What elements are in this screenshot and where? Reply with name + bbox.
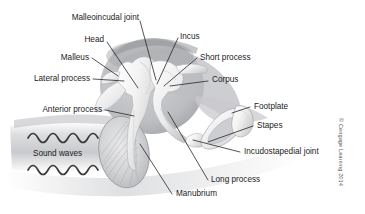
label-lateral-process: Lateral process <box>2 75 90 83</box>
label-manubrium: Manubrium <box>176 190 217 198</box>
label-head: Head <box>4 36 104 44</box>
label-malleoincudal-joint: Malleoincudal joint <box>4 14 139 22</box>
label-sound-waves: Sound waves <box>33 150 82 158</box>
label-stapes: Stapes <box>257 122 283 130</box>
copyright-credit: © Cengage Learning 2014 <box>338 118 344 186</box>
anatomical-figure: Malleoincudal joint Head Malleus Lateral… <box>0 0 365 214</box>
label-malleus: Malleus <box>4 54 89 62</box>
label-anterior-process: Anterior process <box>2 106 102 114</box>
label-footplate: Footplate <box>254 103 288 111</box>
label-incudostapedial-joint: Incudostapedial joint <box>244 148 319 156</box>
label-incus: Incus <box>180 33 200 41</box>
label-corpus: Corpus <box>212 76 238 84</box>
label-short-process: Short process <box>200 54 251 62</box>
label-long-process: Long process <box>211 176 260 184</box>
